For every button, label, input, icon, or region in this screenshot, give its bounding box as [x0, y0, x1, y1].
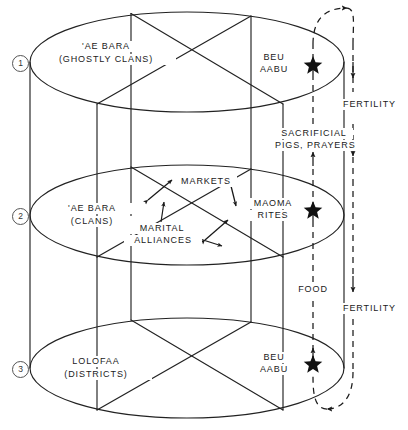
fertility-label-lower: FERTILITY	[343, 303, 401, 314]
tier-1-ritual-line2: AABU	[252, 64, 296, 75]
alliance-arrow-low	[205, 220, 228, 240]
marital-leader-right	[200, 239, 222, 246]
tier-3-name-line2: (DISTRICTS)	[40, 369, 152, 380]
flow-loop-top-tail	[347, 8, 353, 44]
tier-3-ritual-line1: BEU	[252, 352, 296, 363]
tier-3-ellipse	[30, 318, 344, 418]
marital-alliances-line1: MARITAL	[126, 223, 198, 234]
tier-number-2: 2	[12, 208, 29, 225]
fertility-label-upper: FERTILITY	[343, 99, 401, 110]
tier-3-ritual-line2: AABU	[252, 364, 296, 375]
tier-2-ritual-line1: MAOMA	[245, 198, 301, 209]
marital-alliances-line2: ALLIANCES	[124, 235, 202, 246]
flow-loop-bottom	[327, 372, 353, 409]
tier-2-ritual-line2: RITES	[245, 210, 301, 221]
tier-3-name-line1: LOLOFAA	[44, 356, 148, 367]
sacrificial-offering-line1: SACRIFICIAL	[275, 128, 353, 139]
food-label: FOOD	[297, 284, 329, 295]
tier-2-name-line1: 'AE BARA	[44, 203, 140, 214]
tier-number-3: 3	[12, 361, 29, 378]
tier-3-star-icon	[304, 355, 323, 373]
tier-number-1: 1	[12, 55, 29, 72]
markets-label: MARKETS	[175, 176, 237, 187]
tier-1-name-line2: (GHOSTLY CLANS)	[36, 54, 176, 65]
sacrificial-offering-line2: PIGS, PRAYERS	[275, 140, 355, 151]
flow-loop-top	[313, 8, 347, 44]
markets-arrow-left	[148, 180, 172, 200]
tier-1-ritual-line1: BEU	[252, 52, 296, 63]
tier-1-name-line1: 'AE BARA	[46, 41, 166, 52]
diagram-canvas: 1 2 3 'AE BARA (GHOSTLY CLANS) BEU AABU …	[0, 0, 408, 430]
